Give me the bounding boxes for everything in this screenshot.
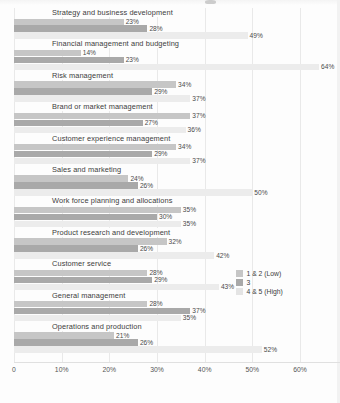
bar[interactable]	[14, 332, 114, 338]
bar[interactable]	[14, 214, 157, 220]
bar-value-label: 37%	[190, 307, 205, 314]
bar[interactable]	[14, 189, 252, 195]
legend-item[interactable]: 4 & 5 (High)	[236, 288, 283, 295]
bar-value-label: 24%	[128, 175, 143, 182]
category-label: Strategy and business development	[50, 8, 175, 17]
bar[interactable]	[14, 32, 248, 38]
bar-row: 14%	[14, 50, 300, 56]
scan-artifact	[205, 0, 216, 4]
bars: 24%26%50%	[14, 175, 300, 196]
bar-value-label: 34%	[176, 143, 191, 150]
bar-value-label: 30%	[157, 213, 172, 220]
bar-chart: Strategy and business development23%28%4…	[0, 0, 340, 403]
x-axis-tick: 50%	[246, 366, 260, 373]
bar-group: Strategy and business development23%28%4…	[14, 8, 300, 39]
bar[interactable]	[14, 308, 190, 314]
legend-item[interactable]: 3	[236, 279, 283, 286]
bar[interactable]	[14, 127, 186, 133]
bar[interactable]	[14, 88, 152, 94]
legend-label: 1 & 2 (Low)	[247, 270, 282, 277]
scan-edge-top	[0, 0, 340, 5]
bar-value-label: 28%	[147, 25, 162, 32]
bar-value-label: 21%	[114, 332, 129, 339]
bar[interactable]	[14, 120, 143, 126]
bar-row: 30%	[14, 214, 300, 220]
bar[interactable]	[14, 315, 181, 321]
x-axis: 010%20%30%40%50%60%	[14, 366, 300, 380]
bar-row: 29%	[14, 88, 300, 94]
bars: 32%26%42%	[14, 238, 300, 259]
legend-swatch-high	[236, 288, 243, 295]
bar-value-label: 23%	[124, 18, 139, 25]
bar-group: Operations and production21%26%52%	[14, 322, 300, 353]
bar[interactable]	[14, 277, 152, 283]
bar[interactable]	[14, 158, 190, 164]
bar-value-label: 29%	[152, 88, 167, 95]
legend-label: 3	[247, 279, 251, 286]
bar[interactable]	[14, 175, 128, 181]
bar-value-label: 34%	[176, 81, 191, 88]
bar-row: 50%	[14, 189, 300, 195]
bar-row: 37%	[14, 308, 300, 314]
bar[interactable]	[14, 95, 190, 101]
bar-value-label: 35%	[181, 206, 196, 213]
x-axis-tick: 60%	[293, 366, 307, 373]
bars: 34%29%37%	[14, 144, 300, 165]
bar[interactable]	[14, 57, 124, 63]
legend-label: 4 & 5 (High)	[247, 288, 283, 295]
gridline	[300, 8, 301, 363]
bar[interactable]	[14, 19, 124, 25]
axis-baseline	[14, 362, 340, 363]
legend-swatch-low	[236, 270, 243, 277]
x-axis-tick: 10%	[55, 366, 69, 373]
x-axis-tick: 40%	[198, 366, 212, 373]
bar-value-label: 28%	[147, 300, 162, 307]
bar[interactable]	[14, 50, 81, 56]
bar-value-label: 37%	[190, 95, 205, 102]
bar[interactable]	[14, 182, 138, 188]
bar-value-label: 14%	[81, 49, 96, 56]
category-label: Customer service	[50, 259, 113, 268]
bars: 28%37%35%	[14, 301, 300, 322]
bar[interactable]	[14, 252, 214, 258]
plot-area: Strategy and business development23%28%4…	[14, 8, 300, 363]
bar-value-label: 26%	[138, 182, 153, 189]
bar-value-label: 23%	[124, 56, 139, 63]
category-label: Customer experience management	[50, 134, 172, 143]
bar[interactable]	[14, 339, 138, 345]
category-label: Work force planning and allocations	[50, 196, 174, 205]
bar-group: Work force planning and allocations35%30…	[14, 196, 300, 227]
bar-value-label: 49%	[248, 32, 263, 39]
bar[interactable]	[14, 301, 147, 307]
bar[interactable]	[14, 221, 181, 227]
bars: 34%29%37%	[14, 81, 300, 102]
bar-value-label: 52%	[262, 346, 277, 353]
bar[interactable]	[14, 64, 319, 70]
bar-row: 37%	[14, 95, 300, 101]
bar-row: 21%	[14, 332, 300, 338]
bar[interactable]	[14, 151, 152, 157]
bar-row: 32%	[14, 238, 300, 244]
x-axis-tick: 0	[12, 366, 16, 373]
bar-row: 64%	[14, 64, 300, 70]
bar-value-label: 26%	[138, 245, 153, 252]
legend-item[interactable]: 1 & 2 (Low)	[236, 270, 283, 277]
bar-value-label: 35%	[181, 314, 196, 321]
bars: 37%27%36%	[14, 113, 300, 134]
x-axis-tick: 20%	[103, 366, 117, 373]
bar-value-label: 27%	[143, 119, 158, 126]
bars: 21%26%52%	[14, 332, 300, 353]
category-label: Product research and development	[50, 228, 172, 237]
category-label: Financial management and budgeting	[50, 39, 181, 48]
bar[interactable]	[14, 284, 219, 290]
bar[interactable]	[14, 113, 190, 119]
bars: 23%28%49%	[14, 19, 300, 40]
bar[interactable]	[14, 270, 147, 276]
bar-group: Financial management and budgeting14%23%…	[14, 39, 300, 70]
bar[interactable]	[14, 245, 138, 251]
bar-row: 29%	[14, 151, 300, 157]
bar-group: Risk management34%29%37%	[14, 71, 300, 102]
bar[interactable]	[14, 346, 262, 352]
bar[interactable]	[14, 25, 147, 31]
bar[interactable]	[14, 207, 181, 213]
